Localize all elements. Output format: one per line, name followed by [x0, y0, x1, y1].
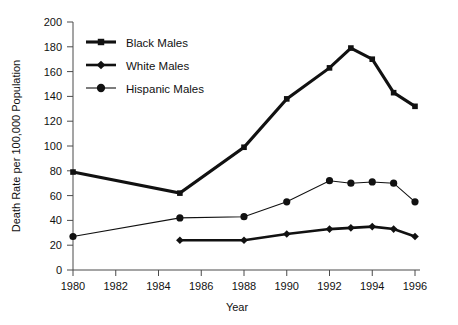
y-tick-label: 0	[56, 264, 62, 276]
square-marker	[348, 45, 354, 51]
x-tick-label: 1996	[403, 280, 427, 292]
circle-marker	[347, 180, 354, 187]
square-marker	[241, 144, 247, 150]
square-marker	[327, 65, 333, 71]
legend-entry-hispanic-males[interactable]: Hispanic Males	[86, 83, 204, 95]
circle-marker	[97, 84, 105, 92]
x-tick-label: 1986	[189, 280, 213, 292]
legend-entry-black-males[interactable]: Black Males	[86, 37, 188, 49]
y-tick-label: 140	[44, 90, 62, 102]
x-tick-labels: 198019821984198619881990199219941996	[61, 280, 427, 292]
y-axis-title: Death Rate per 100,000 Population	[10, 60, 22, 232]
chart-container: 020406080100120140160180200 Death Rate p…	[0, 0, 458, 325]
y-tick-label: 40	[50, 214, 62, 226]
series-black-males	[70, 45, 418, 196]
diamond-marker	[240, 236, 248, 244]
x-tick-label: 1988	[232, 280, 256, 292]
y-tick-label: 80	[50, 165, 62, 177]
x-tick-label: 1980	[61, 280, 85, 292]
series-line	[73, 48, 415, 193]
circle-marker	[283, 198, 290, 205]
y-tick-label: 200	[44, 16, 62, 28]
diamond-marker	[368, 223, 376, 231]
square-marker	[177, 190, 183, 196]
y-tick-label: 60	[50, 190, 62, 202]
y-tick-label: 160	[44, 66, 62, 78]
data-series-group	[69, 45, 418, 244]
circle-marker	[390, 180, 397, 187]
y-tick-label: 120	[44, 115, 62, 127]
y-axis: 020406080100120140160180200 Death Rate p…	[10, 16, 73, 276]
y-tick-labels: 020406080100120140160180200	[44, 16, 62, 276]
legend-label: Hispanic Males	[126, 83, 204, 95]
legend-entry-white-males[interactable]: White Males	[86, 60, 190, 72]
circle-marker	[176, 214, 183, 221]
x-tick-label: 1990	[275, 280, 299, 292]
circle-marker	[240, 213, 247, 220]
x-tick-label: 1984	[146, 280, 170, 292]
legend-label: White Males	[126, 60, 190, 72]
diamond-marker	[97, 61, 106, 70]
diamond-marker	[326, 225, 334, 233]
square-marker	[70, 169, 76, 175]
x-axis: 198019821984198619881990199219941996 Yea…	[61, 270, 427, 313]
y-tick-label: 20	[50, 239, 62, 251]
square-marker	[412, 104, 418, 110]
diamond-marker	[411, 233, 419, 241]
circle-marker	[369, 178, 376, 185]
circle-marker	[411, 198, 418, 205]
y-tick-label: 100	[44, 140, 62, 152]
square-marker	[391, 90, 397, 96]
square-marker	[98, 39, 104, 45]
chart-legend: Black MalesWhite MalesHispanic Males	[86, 37, 204, 95]
diamond-marker	[283, 230, 291, 238]
circle-marker	[326, 177, 333, 184]
x-tick-label: 1982	[104, 280, 128, 292]
x-tick-marks	[73, 270, 415, 276]
line-chart: 020406080100120140160180200 Death Rate p…	[0, 0, 458, 325]
circle-marker	[69, 233, 76, 240]
series-hispanic-males	[69, 177, 418, 240]
y-tick-label: 180	[44, 41, 62, 53]
legend-label: Black Males	[126, 37, 188, 49]
x-tick-label: 1992	[317, 280, 341, 292]
x-tick-label: 1994	[360, 280, 384, 292]
diamond-marker	[176, 236, 184, 244]
square-marker	[284, 96, 290, 102]
diamond-marker	[390, 225, 398, 233]
square-marker	[369, 56, 375, 62]
diamond-marker	[347, 224, 355, 232]
x-axis-title: Year	[226, 301, 249, 313]
y-tick-marks	[67, 22, 73, 270]
series-line	[180, 227, 415, 241]
series-white-males	[176, 223, 419, 244]
